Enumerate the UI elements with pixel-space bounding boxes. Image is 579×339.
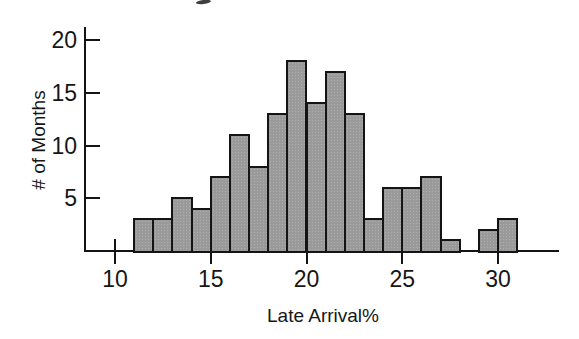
histogram-bar (286, 60, 307, 253)
y-axis-tick (86, 145, 100, 147)
histogram-bar (267, 113, 288, 253)
histogram-bar (191, 208, 212, 253)
histogram-bar (210, 176, 231, 253)
histogram-bar (306, 102, 327, 253)
histogram-bar (401, 187, 422, 253)
histogram-bar (382, 187, 403, 253)
histogram-figure: # of Months Late Arrival% 5101520 101520… (0, 0, 579, 339)
y-axis-tick (86, 92, 100, 94)
x-tick-label: 15 (183, 268, 239, 291)
x-tick-label: 10 (87, 268, 143, 291)
x-tick-label: 30 (470, 268, 526, 291)
y-tick-label: 10 (29, 134, 77, 158)
histogram-bar (325, 71, 346, 253)
y-axis-tick (86, 197, 100, 199)
histogram-bar (133, 218, 154, 253)
cropped-title-fragment (196, 0, 211, 5)
histogram-bar (420, 176, 441, 253)
x-tick-label: 25 (374, 268, 430, 291)
y-tick-label: 15 (29, 81, 77, 105)
y-axis-tick (86, 39, 100, 41)
x-axis-tick (114, 239, 116, 264)
histogram-bar (152, 218, 173, 253)
histogram-bar (344, 113, 365, 253)
histogram-bar (363, 218, 384, 253)
y-axis-line (84, 27, 86, 252)
histogram-bar (229, 134, 250, 253)
histogram-bar (440, 239, 461, 253)
y-tick-label: 20 (29, 28, 77, 52)
histogram-bar (171, 197, 192, 253)
histogram-bar (248, 166, 269, 253)
y-tick-label: 5 (29, 186, 77, 210)
histogram-bar (478, 229, 499, 253)
x-tick-label: 20 (279, 268, 335, 291)
histogram-bar (497, 218, 518, 253)
x-axis-label: Late Arrival% (123, 306, 523, 326)
